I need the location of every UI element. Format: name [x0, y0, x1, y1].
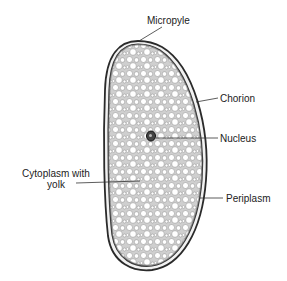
chorion-label: Chorion [220, 93, 255, 104]
chorion-leader [196, 98, 218, 102]
cytoplasm-label-line1: Cytoplasm with [18, 168, 94, 179]
cytoplasm-label-line2: yolk [18, 179, 94, 190]
cytoplasm-label: Cytoplasm with yolk [18, 168, 94, 190]
periplasm-label: Periplasm [226, 193, 270, 204]
diagram-canvas: Micropyle Chorion Nucleus Cytoplasm with… [0, 0, 287, 281]
micropyle-leader [139, 27, 162, 41]
nucleus-label: Nucleus [220, 133, 256, 144]
micropyle-label: Micropyle [147, 15, 190, 26]
